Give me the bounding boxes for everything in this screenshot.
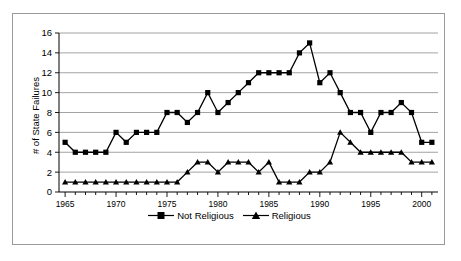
legend-label-religious: Religious <box>272 210 311 221</box>
svg-text:10: 10 <box>41 87 52 98</box>
svg-text:1965: 1965 <box>56 199 75 209</box>
svg-text:12: 12 <box>41 67 52 78</box>
svg-text:1990: 1990 <box>310 199 329 209</box>
svg-text:2000: 2000 <box>412 199 431 209</box>
y-axis-ticks: 0246810121416 <box>41 27 59 197</box>
svg-text:16: 16 <box>41 27 52 38</box>
legend-label-not-religious: Not Religious <box>177 210 234 221</box>
svg-text:14: 14 <box>41 47 52 58</box>
chart-legend: Not Religious Religious <box>13 210 446 221</box>
x-axis-ticks: 19651970197519801985199019952000 <box>56 192 432 209</box>
legend-entry-not-religious: Not Religious <box>148 210 234 221</box>
square-marker-icon <box>148 210 174 221</box>
svg-text:8: 8 <box>47 107 52 118</box>
svg-text:1985: 1985 <box>259 199 278 209</box>
svg-text:1970: 1970 <box>107 199 126 209</box>
triangle-marker-icon <box>243 210 269 221</box>
legend-entry-religious: Religious <box>243 210 311 221</box>
svg-text:2: 2 <box>47 167 52 178</box>
svg-text:1975: 1975 <box>158 199 177 209</box>
svg-text:1980: 1980 <box>208 199 227 209</box>
chart-figure: # of State Failures 0246810121416 196519… <box>12 13 445 245</box>
svg-text:6: 6 <box>47 127 52 138</box>
svg-text:0: 0 <box>47 186 52 197</box>
svg-text:4: 4 <box>47 147 52 158</box>
svg-text:1995: 1995 <box>361 199 380 209</box>
